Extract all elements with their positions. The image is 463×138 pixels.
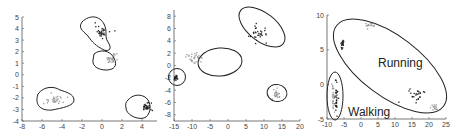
- data-point: [146, 105, 147, 106]
- data-point: [257, 31, 258, 32]
- data-point: [144, 106, 145, 107]
- data-point: [336, 94, 337, 95]
- data-point: [366, 25, 367, 26]
- data-point: [151, 102, 152, 103]
- data-point: [95, 26, 96, 27]
- data-point: [414, 93, 415, 94]
- data-point: [335, 89, 336, 90]
- y-tick-label: 8: [167, 13, 171, 20]
- data-point: [338, 98, 339, 99]
- data-point: [104, 34, 105, 35]
- data-point: [194, 55, 195, 56]
- y-tick-label: -3: [13, 106, 19, 113]
- data-point: [114, 55, 115, 56]
- x-tick-label: 0: [226, 123, 230, 130]
- y-tick-label: -6: [165, 99, 171, 106]
- data-point: [103, 29, 104, 30]
- data-point: [108, 57, 109, 58]
- y-tick-label: 0: [15, 71, 19, 78]
- data-point: [368, 25, 369, 26]
- data-point: [103, 30, 104, 31]
- y-tick-label: -4: [13, 118, 19, 125]
- data-point: [189, 58, 190, 59]
- data-point: [48, 101, 49, 102]
- data-point: [273, 89, 274, 90]
- data-point: [333, 105, 334, 106]
- x-tick-label: 15: [278, 123, 286, 130]
- data-point: [275, 92, 276, 93]
- data-point: [276, 94, 277, 95]
- x-tick-label: 15: [408, 121, 416, 128]
- data-point: [279, 97, 280, 98]
- data-point: [264, 30, 265, 31]
- data-point: [279, 93, 280, 94]
- data-point: [332, 100, 333, 101]
- data-point: [266, 34, 267, 35]
- data-point: [188, 55, 189, 56]
- data-point: [333, 108, 334, 109]
- data-point: [331, 83, 332, 84]
- data-point: [254, 26, 255, 27]
- x-tick-label: -2: [79, 123, 85, 130]
- data-point: [332, 96, 333, 97]
- data-point: [277, 94, 278, 95]
- data-point: [253, 32, 254, 33]
- data-point: [47, 99, 48, 100]
- data-point: [257, 35, 258, 36]
- data-point: [256, 23, 257, 24]
- cluster-boundary: [80, 17, 110, 51]
- y-tick-label: 2: [167, 50, 171, 57]
- data-point: [418, 91, 419, 92]
- data-point: [108, 62, 109, 63]
- data-point: [101, 30, 102, 31]
- data-point: [277, 92, 278, 93]
- panel-1-scatter: -8-6-4-2024-4-3-2-1012345: [13, 14, 157, 131]
- data-point: [52, 99, 53, 100]
- data-point: [248, 36, 249, 37]
- data-point: [60, 97, 61, 98]
- walking-label: Walking: [348, 105, 390, 119]
- data-point: [191, 61, 192, 62]
- data-point: [335, 110, 336, 111]
- x-tick-label: 20: [296, 123, 304, 130]
- x-tick-label: 0: [359, 121, 363, 128]
- data-point: [102, 28, 103, 29]
- y-tick-label: -8: [165, 111, 171, 118]
- y-tick-label: -5: [318, 116, 324, 123]
- data-point: [260, 36, 261, 37]
- data-point: [260, 30, 261, 31]
- y-tick-label: 0: [167, 62, 171, 69]
- data-point: [185, 56, 186, 57]
- data-point: [102, 38, 103, 39]
- data-point: [336, 99, 337, 100]
- data-point: [54, 98, 55, 99]
- data-point: [56, 100, 57, 101]
- data-point: [430, 107, 431, 108]
- data-point: [148, 107, 149, 108]
- cluster-boundary: [232, 0, 292, 55]
- data-point: [98, 26, 99, 27]
- data-point: [336, 82, 337, 83]
- data-point: [59, 101, 60, 102]
- data-point: [255, 43, 256, 44]
- y-tick-label: -1: [13, 83, 19, 90]
- y-tick-label: 4: [15, 25, 19, 32]
- data-point: [260, 33, 261, 34]
- x-tick-label: 0: [100, 123, 104, 130]
- data-point: [103, 34, 104, 35]
- data-point: [256, 27, 257, 28]
- data-point: [174, 79, 175, 80]
- panel-3-scatter: -10-50510152025-50510RunningWalking: [316, 2, 461, 131]
- data-point: [276, 87, 277, 88]
- data-point: [196, 54, 197, 55]
- data-point: [114, 30, 115, 31]
- data-point: [146, 107, 147, 108]
- data-point: [51, 92, 52, 93]
- data-point: [418, 98, 419, 99]
- data-point: [194, 58, 195, 59]
- data-point: [258, 33, 259, 34]
- data-point: [276, 90, 277, 91]
- data-point: [53, 97, 54, 98]
- data-point: [398, 102, 399, 103]
- data-point: [261, 35, 262, 36]
